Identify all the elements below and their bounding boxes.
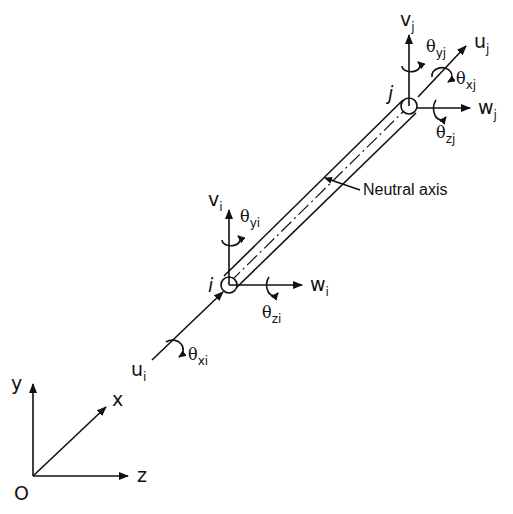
theta-z-i-rotation-icon	[267, 277, 278, 295]
node-i-label: i	[208, 274, 214, 296]
beam-element: Neutral axis	[221, 98, 447, 293]
y-axis-label: y	[11, 372, 22, 394]
v-j-label: vj	[400, 8, 415, 34]
neutral-axis-label: Neutral axis	[363, 181, 447, 198]
w-i-label: wi	[310, 273, 329, 299]
x-axis-label: x	[112, 388, 123, 410]
x-axis-arrow	[33, 407, 106, 476]
theta-z-j-label: θzj	[436, 123, 455, 146]
neutral-axis-leader	[325, 178, 360, 190]
theta-y-i-rotation-icon	[222, 236, 240, 246]
theta-x-i-label: θxi	[188, 345, 208, 368]
u-i-label: ui	[131, 358, 146, 384]
w-j-label: wj	[478, 96, 497, 122]
z-axis-label: z	[137, 464, 147, 486]
theta-x-i-rotation-icon	[166, 340, 183, 357]
node-j-label: j	[385, 82, 394, 104]
global-axes: y x z O	[11, 372, 147, 504]
theta-y-i-label: θyi	[240, 207, 260, 230]
theta-y-j-rotation-icon	[402, 62, 420, 72]
u-j-label: uj	[474, 30, 489, 56]
theta-z-i-label: θzi	[262, 303, 281, 326]
v-i-label: vi	[208, 188, 223, 214]
theta-x-j-label: θxj	[456, 69, 476, 92]
beam-element-diagram: y x z O Neutral axis i vi θyi wi θzi ui …	[0, 0, 513, 514]
origin-label: O	[14, 482, 29, 504]
theta-z-j-rotation-icon	[433, 100, 446, 120]
node-j-dofs: j vj θyj uj θxj wj θzj	[385, 8, 497, 146]
theta-y-j-label: θyj	[426, 37, 446, 60]
